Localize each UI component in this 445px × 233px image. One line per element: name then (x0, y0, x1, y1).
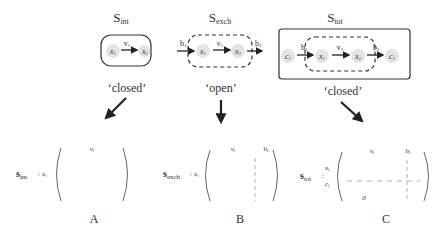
matrix-c-row-label-c: ci (325, 180, 330, 188)
matrix-c-row-label-x: xi (324, 164, 330, 172)
reaction-label-v1: v1 (337, 43, 344, 52)
matrix-b-colon: : (190, 170, 192, 178)
matrix-b-row-label: xi (193, 170, 199, 178)
matrix-a: sint : xi vi A (16, 145, 128, 226)
matrix-a-left-paren (57, 148, 62, 201)
matrix-b-label: sexch (163, 168, 181, 181)
matrix-a-row-label: xi (41, 170, 47, 178)
matrix-c-right-paren (424, 152, 429, 201)
boundary-label-closed-a: ‘closed’ (108, 81, 147, 95)
matrix-a-label: sint (16, 168, 27, 181)
panel-letter-b: B (236, 212, 244, 226)
system-title-int: Sint (113, 10, 129, 26)
matrix-c-colon: : (322, 172, 324, 180)
boundary-label-closed-c: ‘closed’ (324, 84, 363, 98)
panel-a-network: Sint x1 x2 v1 ‘closed’ (101, 10, 151, 118)
matrix-c-left-paren (338, 152, 343, 201)
system-title-exch: Sexch (209, 10, 231, 26)
system-title-tot: Stot (327, 10, 343, 26)
panel-letter-c: C (382, 212, 390, 226)
reaction-label-v1: v1 (217, 39, 224, 48)
exchange-label-b1: b1 (180, 39, 187, 48)
boundary-label-open: ‘open’ (205, 81, 236, 95)
exchange-label-b2: b2 (373, 43, 380, 52)
exchange-label-b1: b1 (301, 43, 308, 52)
matrix-c-zero-block: 0 (362, 194, 366, 202)
panel-letter-a: A (90, 212, 99, 226)
panel-b-network: Sexch b1 x1 v1 x2 b2 ‘open’ (177, 10, 262, 122)
matrix-b: sexch : xi vi bi B (163, 145, 278, 226)
diagram-canvas: Sint x1 x2 v1 ‘closed’ Sexch b1 x1 v1 x2… (0, 0, 445, 233)
matrix-b-right-paren (273, 150, 278, 201)
arrow-to-matrix-c (341, 102, 362, 121)
matrix-b-left-paren (206, 150, 211, 201)
matrix-b-col-label-b: bi (264, 145, 270, 153)
exchange-label-b2: b2 (255, 39, 262, 48)
reaction-label-v1: v1 (124, 39, 131, 48)
matrix-c-col-label-b: bi (406, 147, 412, 155)
matrix-a-colon: : (38, 170, 40, 178)
panel-c-network: Stot c1 b1 x1 v1 x2 b2 c2 ‘closed’ (279, 10, 410, 121)
matrix-c-col-label-v: vi (370, 147, 375, 155)
matrix-b-col-label-v: vi (231, 145, 236, 153)
matrix-c-label: stot (300, 170, 311, 183)
matrix-a-right-paren (123, 148, 128, 201)
matrix-a-col-label: vi (90, 145, 95, 153)
matrix-c: stot : xi ci vi bi 0 C (300, 147, 429, 226)
arrow-to-matrix-a (106, 98, 126, 118)
